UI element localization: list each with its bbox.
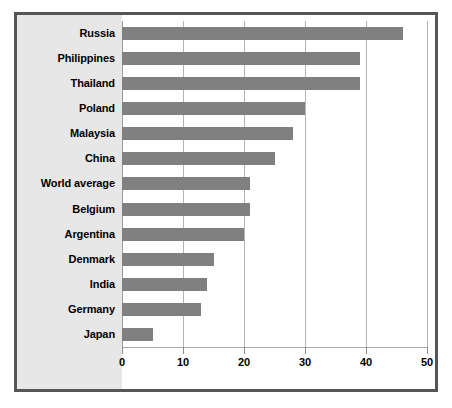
bar-row: Argentina [17,222,427,247]
x-tick-mark [305,347,306,354]
bar-row: India [17,272,427,297]
x-tick-mark [366,347,367,354]
bar-row: Denmark [17,247,427,272]
category-label: Russia [17,27,115,40]
bar-row: Philippines [17,46,427,71]
bar [122,52,360,65]
bar [122,253,214,266]
x-tick-label: 30 [299,356,311,368]
category-label: Thailand [17,77,115,90]
bar-row: Belgium [17,197,427,222]
bar [122,328,153,341]
gridline-50 [427,21,428,347]
bar [122,77,360,90]
bar [122,203,250,216]
category-label: Philippines [17,52,115,65]
x-tick-mark [183,347,184,354]
category-label: Belgium [17,203,115,216]
bar-row: Poland [17,96,427,121]
bar [122,278,207,291]
bar-row: Thailand [17,71,427,96]
x-tick-label: 20 [238,356,250,368]
bar [122,152,275,165]
bar-row: Russia [17,21,427,46]
x-tick-label: 50 [421,356,433,368]
bar [122,102,305,115]
bar [122,228,244,241]
x-tick-label: 10 [177,356,189,368]
bar [122,303,201,316]
category-label: Japan [17,328,115,341]
x-tick-label: 0 [119,356,125,368]
bar-row: Germany [17,297,427,322]
bar [122,127,293,140]
x-axis: 01020304050 [122,347,427,389]
category-label: China [17,152,115,165]
x-tick-mark [122,347,123,354]
bar [122,27,403,40]
category-label: World average [17,177,115,190]
bar-row: World average [17,171,427,196]
bar-row: Japan [17,322,427,347]
category-label: Germany [17,303,115,316]
x-tick-mark [244,347,245,354]
bar-rows: RussiaPhilippinesThailandPolandMalaysiaC… [17,21,427,347]
category-label: Poland [17,102,115,115]
category-label: India [17,278,115,291]
category-label: Malaysia [17,127,115,140]
bar [122,177,250,190]
chart-frame: RussiaPhilippinesThailandPolandMalaysiaC… [14,12,438,392]
category-label: Denmark [17,253,115,266]
bar-row: Malaysia [17,121,427,146]
x-tick-label: 40 [360,356,372,368]
category-label: Argentina [17,228,115,241]
chart-canvas: RussiaPhilippinesThailandPolandMalaysiaC… [17,15,435,389]
x-tick-mark [427,347,428,354]
bar-row: China [17,146,427,171]
